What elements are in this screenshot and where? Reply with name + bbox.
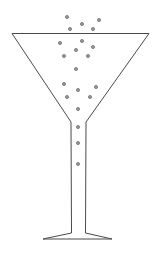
- bubble: [76, 88, 79, 91]
- bubble: [80, 39, 83, 42]
- bubble: [86, 54, 89, 57]
- glass-outline: [12, 34, 149, 240]
- bubble: [97, 18, 100, 21]
- bubble: [76, 125, 79, 128]
- bubble: [88, 95, 91, 98]
- bubble: [76, 162, 79, 165]
- bubble: [94, 85, 97, 88]
- bubble: [65, 15, 68, 18]
- bubble: [65, 95, 68, 98]
- bubble: [62, 82, 65, 85]
- glass-bowl-right: [86, 34, 149, 127]
- bubble: [68, 27, 71, 30]
- bubble: [74, 67, 77, 70]
- glass-stem-right: [86, 126, 113, 239]
- bubble: [76, 107, 79, 110]
- bubble: [80, 22, 83, 25]
- bubble: [76, 141, 79, 144]
- bubble: [62, 54, 65, 57]
- bubble: [91, 45, 94, 48]
- bubbles: [58, 15, 100, 165]
- bubble: [91, 27, 94, 30]
- bubble: [58, 41, 61, 44]
- glass-stem-left: [43, 126, 72, 239]
- glass-bowl-left: [12, 34, 71, 127]
- cocktail-glass-illustration: [0, 0, 156, 253]
- bubble: [74, 48, 77, 51]
